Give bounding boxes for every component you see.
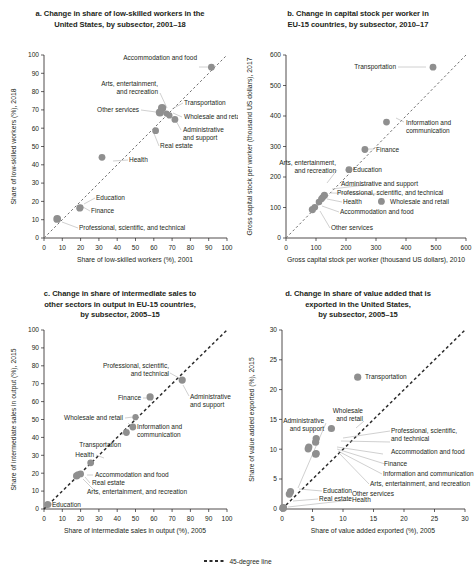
point-label-arts-entertainment-recreation: Arts, entertainment, and recreation — [87, 488, 187, 495]
data-point — [87, 459, 94, 466]
data-point — [362, 146, 369, 153]
svg-text:50: 50 — [32, 143, 40, 150]
panel-b-y-tick-labels: 600500 400300 200100 0 — [270, 51, 281, 241]
svg-text:and recreation: and recreation — [116, 88, 158, 95]
svg-text:Administrative: Administrative — [183, 126, 224, 133]
svg-text:50: 50 — [132, 244, 140, 251]
svg-text:10: 10 — [32, 487, 40, 494]
chart-legend: 45-degree line — [0, 557, 476, 566]
svg-text:Administrative and support: Administrative and support — [341, 180, 418, 188]
figure-panels-container: a. Change in share of low-skilled worker… — [0, 0, 476, 572]
svg-text:300: 300 — [270, 143, 281, 150]
svg-text:communication: communication — [137, 431, 181, 438]
svg-text:and recreation: and recreation — [294, 167, 336, 174]
data-point — [147, 393, 154, 400]
point-label-transportation: Transportation — [354, 63, 396, 71]
data-point — [44, 501, 51, 508]
svg-text:5: 5 — [273, 475, 277, 482]
svg-text:80: 80 — [187, 515, 195, 522]
panel-d-y-tick-labels: 3025 2015 105 0 — [270, 326, 278, 512]
data-point — [305, 445, 312, 452]
point-label-other-services: Other services — [97, 106, 140, 113]
svg-text:and support: and support — [183, 134, 218, 142]
point-label-education: Education — [52, 501, 81, 508]
svg-text:Information and: Information and — [406, 119, 452, 126]
panel-b-x-axis-label: Gross capital stock per worker (thousand… — [287, 256, 465, 264]
panel-a-x-ticks — [44, 238, 227, 241]
svg-text:70: 70 — [168, 515, 176, 522]
data-point — [312, 439, 319, 446]
svg-text:90: 90 — [32, 344, 40, 351]
point-label-education: Education — [323, 487, 352, 494]
svg-text:and technical: and technical — [391, 435, 430, 442]
svg-text:Professional, scientific, and: Professional, scientific, and technical — [337, 189, 444, 196]
panel-d-x-tick-labels: 05 1015 2025 30 — [280, 515, 469, 522]
svg-text:Professional, scientific,: Professional, scientific, — [391, 427, 457, 434]
svg-text:and support: and support — [190, 401, 225, 409]
panel-b-x-tick-labels: 0100 200300 400500 600 — [284, 244, 472, 251]
panel-d-y-ticks — [279, 330, 282, 509]
svg-text:0: 0 — [284, 244, 288, 251]
svg-text:30: 30 — [270, 326, 278, 333]
svg-text:70: 70 — [32, 106, 40, 113]
dashed-line-icon — [204, 557, 224, 565]
svg-text:100: 100 — [28, 51, 39, 58]
svg-text:20: 20 — [270, 386, 278, 393]
svg-text:5: 5 — [311, 515, 315, 522]
panel-b: b. Change in capital stock per worker in… — [238, 0, 476, 286]
point-label-health: Health — [129, 156, 148, 163]
svg-text:Administrative: Administrative — [283, 417, 324, 424]
svg-text:50: 50 — [132, 515, 140, 522]
data-point — [354, 374, 361, 381]
legend-label-45-degree-line: 45-degree line — [229, 558, 271, 565]
data-point — [129, 424, 136, 431]
data-point — [156, 108, 164, 116]
panel-a: a. Change in share of low-skilled worker… — [0, 0, 238, 286]
panel-c-y-axis-label: Share of intermediate sales in output (%… — [10, 348, 18, 490]
svg-text:60: 60 — [32, 125, 40, 132]
point-label-accommodation-and-food: Accommodation and food — [391, 448, 465, 455]
svg-text:25: 25 — [431, 515, 439, 522]
svg-text:100: 100 — [270, 204, 281, 211]
svg-text:40: 40 — [114, 515, 122, 522]
data-point — [166, 112, 172, 118]
panel-b-x-ticks — [286, 238, 466, 241]
panel-d: d. Change in share of value added that i… — [238, 286, 476, 572]
svg-text:Arts, entertainment,: Arts, entertainment, — [279, 159, 336, 166]
point-label-education: Education — [96, 194, 125, 201]
svg-text:80: 80 — [32, 88, 40, 95]
data-point — [76, 205, 83, 212]
point-label-transportation: Transportation — [79, 441, 121, 449]
panel-b-y-ticks — [283, 55, 286, 238]
panel-a-y-ticks — [41, 55, 44, 238]
svg-text:40: 40 — [32, 161, 40, 168]
panel-c-y-ticks — [41, 330, 44, 509]
panel-b-y-axis-label: Gross capital stock per worker (thousand… — [246, 57, 254, 235]
point-label-wholesale-and-retail: Wholesale and retail — [184, 113, 238, 120]
data-point — [378, 198, 385, 205]
svg-text:10: 10 — [59, 244, 67, 251]
data-point — [73, 472, 80, 479]
svg-text:40: 40 — [32, 434, 40, 441]
panel-c-x-ticks — [44, 509, 227, 512]
svg-text:500: 500 — [430, 244, 441, 251]
panel-a-x-axis-label: Share of low-skilled workers (%), 2001 — [77, 256, 193, 264]
point-label-transportation: Transportation — [365, 373, 407, 381]
svg-text:10: 10 — [32, 216, 40, 223]
panel-c-point-labels: Professional, scientific, and technical … — [52, 362, 231, 508]
svg-text:0: 0 — [277, 234, 281, 241]
panel-b-plot: 600500 400300 200100 0 0100 200300 40050… — [238, 0, 476, 286]
panel-a-y-tick-labels: 10090 8070 6050 4030 2010 0 — [28, 51, 39, 241]
svg-text:30: 30 — [32, 452, 40, 459]
point-label-accommodation-and-food: Accommodation and food — [340, 208, 414, 215]
svg-text:20: 20 — [32, 198, 40, 205]
svg-text:25: 25 — [270, 356, 278, 363]
svg-text:80: 80 — [32, 362, 40, 369]
data-point — [179, 377, 186, 384]
panel-c-plot: 10090 8070 6050 4030 2010 0 010 2030 405… — [0, 286, 238, 572]
data-point — [346, 166, 353, 173]
svg-text:0: 0 — [42, 244, 46, 251]
point-label-finance: Finance — [384, 460, 408, 467]
panel-c: c. Change in share of intermediate sales… — [0, 286, 238, 572]
panel-a-plot: 10090 8070 6050 4030 2010 0 010 2030 405… — [0, 0, 238, 286]
